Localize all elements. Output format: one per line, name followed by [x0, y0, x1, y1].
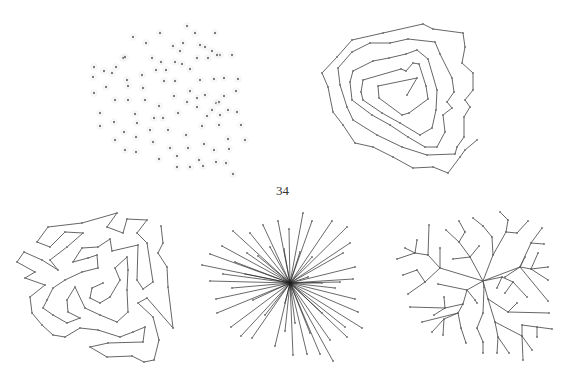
vertex-dot: [81, 271, 83, 273]
vertex-dot: [288, 228, 290, 230]
tree-edge: [444, 297, 445, 308]
vertex-dot: [116, 321, 118, 323]
vertex-dot: [189, 68, 191, 70]
vertex-dot: [406, 94, 408, 96]
vertex-dot: [89, 346, 91, 348]
vertex-dot: [376, 134, 378, 136]
tree-edge: [463, 290, 467, 304]
tree-edge: [531, 253, 538, 269]
vertex-dot: [402, 274, 404, 276]
vertex-dot: [97, 329, 99, 331]
vertex-dot: [136, 232, 138, 234]
vertex-dot: [124, 56, 126, 58]
vertex-dot: [321, 72, 323, 74]
vertex-dot: [23, 251, 25, 253]
tree-edge: [467, 281, 483, 290]
vertex-dot: [351, 39, 353, 41]
vertex-dot: [422, 23, 424, 25]
vertex-dot: [339, 84, 341, 86]
vertex-dot: [299, 251, 301, 253]
vertex-dot: [354, 298, 356, 300]
vertex-dot: [215, 161, 217, 163]
vertex-dot: [235, 90, 237, 92]
vertex-dot: [186, 25, 188, 27]
vertex-dot: [409, 306, 411, 308]
vertex-dot: [231, 54, 233, 56]
vertex-dot: [531, 349, 533, 351]
tree-edge: [443, 319, 444, 335]
vertex-dot: [407, 293, 409, 295]
tree-edge: [432, 319, 444, 332]
vertex-dot: [137, 302, 139, 304]
vertex-dot: [464, 46, 466, 48]
tree-edge: [434, 308, 445, 315]
vertex-dot: [203, 143, 205, 145]
vertex-dot: [126, 289, 128, 291]
vertex-dot: [432, 28, 434, 30]
vertex-dot: [389, 124, 391, 126]
tree-edge: [425, 268, 440, 282]
vertex-dot: [452, 258, 454, 260]
vertex-dot: [499, 211, 501, 213]
vertex-dot: [127, 311, 129, 313]
vertex-dot: [427, 98, 429, 100]
tree-edge: [500, 212, 508, 220]
star-panel: [201, 212, 363, 362]
vertex-dot: [447, 172, 449, 174]
vertex-dot: [283, 248, 285, 250]
star-edge: [290, 283, 362, 328]
vertex-dot: [221, 245, 223, 247]
vertex-dot: [96, 254, 98, 256]
vertex-dot: [236, 111, 238, 113]
vertex-dot: [160, 61, 162, 63]
vertex-dot: [334, 287, 336, 289]
vertex-dot: [177, 112, 179, 114]
vertex-dot: [311, 256, 313, 258]
vertex-dot: [446, 101, 448, 103]
tree-edge: [417, 270, 425, 282]
vertex-dot: [114, 99, 116, 101]
vertex-dot: [204, 46, 206, 48]
vertex-dot: [135, 136, 137, 138]
vertex-dot: [113, 121, 115, 123]
vertex-dot: [149, 129, 151, 131]
vertex-dot: [106, 356, 108, 358]
tree-edge: [505, 282, 513, 293]
vertex-dot: [99, 314, 101, 316]
vertex-dot: [548, 312, 550, 314]
vertex-dot: [378, 97, 380, 99]
vertex-dot: [201, 125, 203, 127]
vertex-dot: [66, 246, 68, 248]
vertex-dot: [244, 273, 246, 275]
tree-edge: [497, 277, 502, 288]
tree-edge: [477, 328, 483, 342]
vertex-dot: [401, 146, 403, 148]
vertex-dot: [52, 334, 54, 336]
vertex-dot: [97, 246, 99, 248]
vertex-dot: [274, 345, 276, 347]
vertex-dot: [434, 41, 436, 43]
vertex-dot: [547, 300, 549, 302]
vertex-dot: [522, 359, 524, 361]
vertex-dot: [451, 77, 453, 79]
vertex-dot: [84, 307, 86, 309]
vertex-dot: [42, 307, 44, 309]
vertex-dot: [382, 32, 384, 34]
vertex-dot: [362, 79, 364, 81]
vertex-dot: [352, 70, 354, 72]
vertex-dot: [198, 159, 200, 161]
vertex-dot: [372, 146, 374, 148]
vertex-dot: [547, 279, 549, 281]
vertex-dot: [196, 97, 198, 99]
tree-edge: [467, 290, 475, 300]
vertex-dot: [97, 267, 99, 269]
vertex-dot: [106, 226, 108, 228]
vertex-dot: [202, 165, 204, 167]
vertex-dot: [67, 311, 69, 313]
vertex-dot: [207, 57, 209, 59]
vertex-dot: [223, 95, 225, 97]
vertex-dot: [127, 99, 129, 101]
vertex-dot: [194, 32, 196, 34]
vertex-dot: [292, 354, 294, 356]
vertex-dot: [144, 99, 146, 101]
